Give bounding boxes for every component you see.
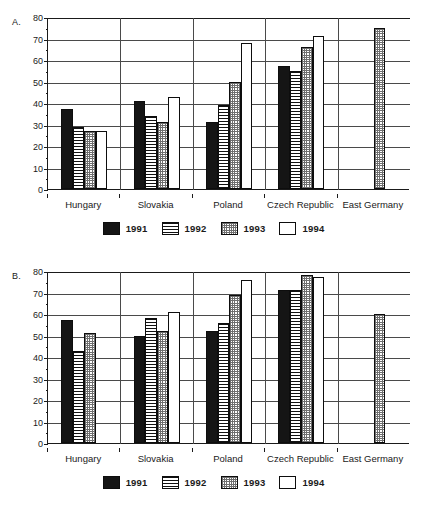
bar-a-poland-1994 <box>241 43 253 189</box>
x-tick-mark <box>264 194 265 198</box>
x-tick-mark <box>192 448 193 452</box>
legend-item-1992[interactable]: 1992 <box>162 222 207 235</box>
legend-item-1991[interactable]: 1991 <box>103 476 148 489</box>
legend-item-1993[interactable]: 1993 <box>221 476 266 489</box>
y-tick-mark-30 <box>44 380 48 381</box>
legend-label-1994: 1994 <box>302 478 324 488</box>
x-tick-mark <box>119 448 120 452</box>
x-tick-mark <box>47 448 48 452</box>
bar-b-czech-republic-1994 <box>313 277 325 443</box>
y-tick-label-30: 30 <box>33 121 43 130</box>
y-tick-label-0: 0 <box>38 186 43 195</box>
y-tick-label-80: 80 <box>33 14 43 23</box>
bar-a-czech-republic-1994 <box>313 36 325 189</box>
y-tick-mark-20 <box>44 147 48 148</box>
bar-a-hungary-1993 <box>84 131 96 189</box>
y-tick-mark-40 <box>44 358 48 359</box>
panel-a: A. 01020304050607080 HungarySlovakiaPola… <box>0 0 427 254</box>
bar-a-slovakia-1991 <box>134 101 146 189</box>
legend-swatch-icon-1992 <box>162 476 179 489</box>
gridline-80 <box>48 272 410 273</box>
bar-b-poland-1993 <box>229 295 241 443</box>
panel-a-x-axis: HungarySlovakiaPolandCzech RepublicEast … <box>47 194 409 208</box>
category-separator <box>120 18 121 190</box>
legend-label-1992: 1992 <box>185 478 207 488</box>
bar-b-slovakia-1992 <box>145 318 157 443</box>
legend-item-1994[interactable]: 1994 <box>279 476 324 489</box>
y-tick-minor <box>46 158 49 159</box>
x-tick-mark <box>337 448 338 452</box>
category-separator <box>338 18 339 190</box>
gridline-70 <box>48 40 410 41</box>
y-tick-minor <box>46 50 49 51</box>
y-tick-label-10: 10 <box>33 418 43 427</box>
panel-b-label: B. <box>12 271 21 281</box>
bar-a-slovakia-1994 <box>168 97 180 189</box>
legend-label-1991: 1991 <box>126 478 148 488</box>
bar-b-poland-1992 <box>218 323 230 443</box>
y-tick-label-20: 20 <box>33 143 43 152</box>
panel-b-legend: 1991199219931994 <box>0 476 427 489</box>
x-tick-mark <box>264 448 265 452</box>
bar-a-east-germany-1993 <box>374 28 386 189</box>
y-tick-minor <box>46 433 49 434</box>
y-tick-mark-0 <box>44 190 48 191</box>
y-tick-minor <box>46 136 49 137</box>
x-tick-mark <box>119 194 120 198</box>
x-axis-label-hungary: Hungary <box>65 454 101 464</box>
y-tick-mark-20 <box>44 401 48 402</box>
y-tick-label-70: 70 <box>33 289 43 298</box>
y-tick-minor <box>46 179 49 180</box>
category-separator <box>265 18 266 190</box>
bar-b-east-germany-1993 <box>374 314 386 443</box>
y-tick-mark-40 <box>44 104 48 105</box>
y-tick-minor <box>46 347 49 348</box>
legend-item-1991[interactable]: 1991 <box>103 222 148 235</box>
legend-swatch-icon-1991 <box>103 222 120 235</box>
y-tick-label-50: 50 <box>33 332 43 341</box>
y-tick-label-30: 30 <box>33 375 43 384</box>
y-tick-label-60: 60 <box>33 311 43 320</box>
bar-a-czech-republic-1992 <box>290 71 302 189</box>
y-tick-minor <box>46 412 49 413</box>
x-axis-label-poland: Poland <box>213 200 243 210</box>
legend-item-1994[interactable]: 1994 <box>279 222 324 235</box>
bar-b-poland-1991 <box>206 331 218 443</box>
x-axis-label-czech-republic: Czech Republic <box>267 200 334 210</box>
y-tick-label-80: 80 <box>33 268 43 277</box>
y-tick-label-60: 60 <box>33 57 43 66</box>
legend-item-1992[interactable]: 1992 <box>162 476 207 489</box>
y-tick-mark-10 <box>44 423 48 424</box>
x-tick-mark <box>47 194 48 198</box>
panel-a-plot: 01020304050607080 <box>47 18 409 190</box>
category-separator <box>193 272 194 444</box>
y-tick-mark-30 <box>44 126 48 127</box>
y-tick-minor <box>46 304 49 305</box>
legend-label-1994: 1994 <box>302 224 324 234</box>
legend-swatch-icon-1993 <box>221 222 238 235</box>
y-tick-minor <box>46 369 49 370</box>
bar-b-slovakia-1994 <box>168 312 180 443</box>
legend-item-1993[interactable]: 1993 <box>221 222 266 235</box>
legend-swatch-icon-1991 <box>103 476 120 489</box>
x-tick-mark <box>192 194 193 198</box>
legend-swatch-icon-1992 <box>162 222 179 235</box>
x-axis-label-slovakia: Slovakia <box>138 200 174 210</box>
legend-swatch-icon-1994 <box>279 476 296 489</box>
figure-root: A. 01020304050607080 HungarySlovakiaPola… <box>0 0 427 508</box>
panel-b-plot: 01020304050607080 <box>47 272 409 444</box>
bar-b-czech-republic-1992 <box>290 290 302 443</box>
panel-b: B. 01020304050607080 HungarySlovakiaPola… <box>0 254 427 508</box>
panel-a-legend: 1991199219931994 <box>0 222 427 235</box>
bar-a-hungary-1991 <box>61 109 73 189</box>
y-tick-mark-60 <box>44 315 48 316</box>
x-axis-label-poland: Poland <box>213 454 243 464</box>
y-tick-mark-80 <box>44 18 48 19</box>
category-separator <box>120 272 121 444</box>
category-separator <box>193 18 194 190</box>
y-tick-mark-50 <box>44 83 48 84</box>
panel-b-plot-area: 01020304050607080 <box>47 272 409 444</box>
gridline-60 <box>48 61 410 62</box>
y-tick-label-50: 50 <box>33 78 43 87</box>
bar-b-hungary-1991 <box>61 320 73 443</box>
